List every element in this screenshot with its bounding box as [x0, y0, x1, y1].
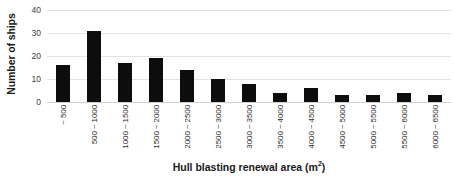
y-tick-label-30: 30	[32, 28, 41, 38]
x-tick-slot: 5000 ~ 5500	[358, 103, 389, 159]
x-tick-slot: 4500 ~ 5000	[327, 103, 358, 159]
y-tick-label-40: 40	[32, 5, 41, 15]
x-tick-label: 2500 ~ 3000	[213, 105, 222, 149]
bar	[273, 93, 287, 102]
bar-slot	[233, 10, 264, 102]
x-tick-slot: 3500 ~ 4000	[265, 103, 296, 159]
x-tick-slot: 2500 ~ 3000	[202, 103, 233, 159]
bar	[366, 95, 380, 102]
x-tick-label: 1000 ~ 1500	[120, 105, 129, 149]
x-tick-label: ~ 500	[58, 105, 67, 125]
bar	[335, 95, 349, 102]
x-tick-label: 1500 ~ 2000	[151, 105, 160, 149]
y-axis-title-text: Number of ships	[5, 13, 17, 94]
x-tick-label: 4000 ~ 4500	[307, 105, 316, 149]
bar	[149, 58, 163, 102]
y-axis-title: Number of ships	[0, 0, 22, 108]
y-tick-label-20: 20	[32, 51, 41, 61]
x-tick-label: 2000 ~ 2500	[182, 105, 191, 149]
x-axis-title-tail: )	[322, 161, 326, 173]
plot-area	[47, 10, 451, 102]
bar-slot	[296, 10, 327, 102]
x-tick-slot: 5500 ~ 6000	[389, 103, 420, 159]
bar-slot	[389, 10, 420, 102]
bar-slot	[358, 10, 389, 102]
bar-slot	[420, 10, 451, 102]
x-tick-label: 500 ~ 1000	[89, 105, 98, 144]
x-tick-label: 4500 ~ 5000	[338, 105, 347, 149]
bar-slot	[171, 10, 202, 102]
y-axis-tick-labels: 010203040	[22, 10, 44, 102]
bar-chart-figure: Number of ships 010203040 ~ 500500 ~ 100…	[0, 0, 455, 187]
x-tick-slot: ~ 500	[47, 103, 78, 159]
x-axis-title-text: Hull blasting renewal area (m	[173, 161, 318, 173]
bar-slot	[109, 10, 140, 102]
x-tick-label: 6000 ~ 6500	[431, 105, 440, 149]
x-tick-label: 3000 ~ 3500	[244, 105, 253, 149]
y-tick-label-0: 0	[36, 97, 41, 107]
bar	[180, 70, 194, 102]
x-tick-slot: 4000 ~ 4500	[296, 103, 327, 159]
bar	[304, 88, 318, 102]
bar	[428, 95, 442, 102]
bar	[211, 79, 225, 102]
bar	[56, 65, 70, 102]
x-tick-slot: 1500 ~ 2000	[140, 103, 171, 159]
x-tick-slot: 2000 ~ 2500	[171, 103, 202, 159]
bar	[87, 31, 101, 102]
bar	[242, 84, 256, 102]
x-tick-slot: 500 ~ 1000	[78, 103, 109, 159]
bar	[118, 63, 132, 102]
bar-slot	[140, 10, 171, 102]
bar	[397, 93, 411, 102]
x-tick-slot: 6000 ~ 6500	[420, 103, 451, 159]
x-tick-label: 5000 ~ 5500	[369, 105, 378, 149]
bars-series	[47, 10, 451, 102]
bar-slot	[327, 10, 358, 102]
x-tick-slot: 1000 ~ 1500	[109, 103, 140, 159]
x-tick-label: 3500 ~ 4000	[276, 105, 285, 149]
x-axis-title: Hull blasting renewal area (m2)	[47, 160, 451, 173]
x-tick-slot: 3000 ~ 3500	[233, 103, 264, 159]
bar-slot	[265, 10, 296, 102]
x-axis-tick-labels: ~ 500500 ~ 10001000 ~ 15001500 ~ 2000200…	[47, 103, 451, 159]
bar-slot	[78, 10, 109, 102]
y-tick-label-10: 10	[32, 74, 41, 84]
x-tick-label: 5500 ~ 6000	[400, 105, 409, 149]
bar-slot	[47, 10, 78, 102]
bar-slot	[202, 10, 233, 102]
